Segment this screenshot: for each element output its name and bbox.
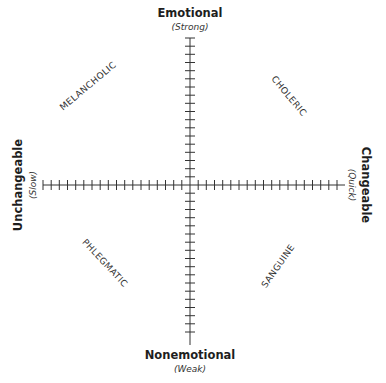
axis-label-bottom: Nonemotional: [145, 348, 236, 362]
axis-sublabel-left: (Slow): [28, 171, 38, 199]
axis-label-left: Unchangeable: [11, 139, 25, 231]
axis-sublabel-right: (Quick): [347, 169, 357, 201]
axis-sublabel-bottom: (Weak): [174, 364, 206, 374]
axis-label-top: Emotional: [158, 6, 223, 20]
axis-label-right: Changeable: [359, 147, 373, 223]
axis-sublabel-top: (Strong): [172, 22, 209, 32]
axes-diagram: [0, 0, 386, 383]
